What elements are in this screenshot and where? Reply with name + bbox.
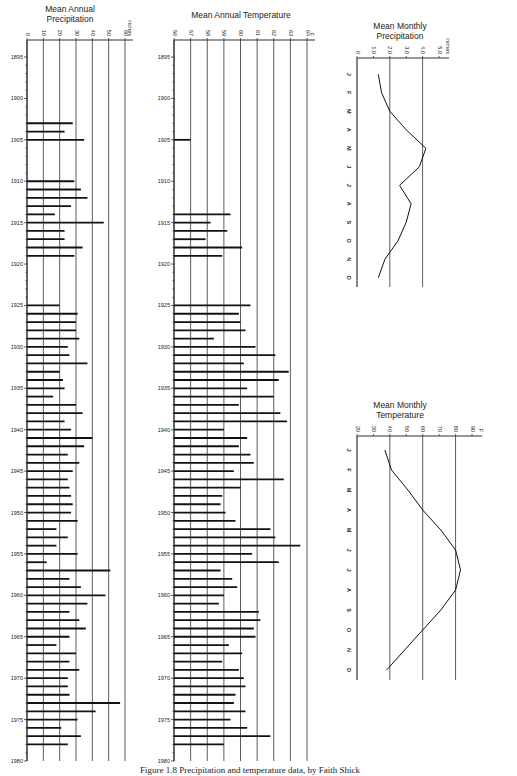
climate-figure: Mean AnnualPrecipitation0102030405060inc… <box>0 0 517 776</box>
x-tick-label: 58 <box>205 30 211 36</box>
y-tick-label: 1965 <box>11 634 23 640</box>
x-tick-label: 0 <box>25 33 31 36</box>
monthly-precipitation-chart: Mean MonthlyPrecipitation01.02.03.04.05.… <box>346 21 451 287</box>
y-tick-label: 1975 <box>11 717 23 723</box>
x-tick-label: 30 <box>74 30 80 36</box>
month-label: M <box>346 488 352 493</box>
y-tick-label: 1900 <box>158 95 170 101</box>
y-tick-label: 1965 <box>158 634 170 640</box>
y-tick-label: 1905 <box>158 137 170 143</box>
month-label: J <box>346 548 352 551</box>
y-tick-label: 1910 <box>11 178 23 184</box>
x-tick-label: 50 <box>404 426 410 432</box>
chart-title: Mean Monthly <box>373 400 427 410</box>
y-tick-label: 1930 <box>158 344 170 350</box>
month-label: O <box>346 239 352 244</box>
month-label: J <box>346 448 352 451</box>
y-tick-label: 1895 <box>158 54 170 60</box>
x-tick-label: 20 <box>355 426 361 432</box>
y-tick-label: 1925 <box>158 302 170 308</box>
x-tick-label: 40 <box>387 426 393 432</box>
month-label: D <box>346 276 352 280</box>
x-tick-label: 10 <box>41 30 47 36</box>
month-label: D <box>346 668 352 672</box>
chart-title: Mean Annual <box>45 4 95 14</box>
x-unit-label: F <box>478 429 484 433</box>
month-label: J <box>346 165 352 168</box>
month-label: M <box>346 146 352 151</box>
x-tick-label: 62 <box>271 30 277 36</box>
x-tick-label: 56 <box>172 30 178 36</box>
y-tick-label: 1920 <box>11 261 23 267</box>
y-tick-label: 1915 <box>158 220 170 226</box>
month-label: M <box>346 528 352 533</box>
month-label: M <box>346 109 352 114</box>
y-tick-label: 1955 <box>11 551 23 557</box>
y-tick-label: 1950 <box>11 510 23 516</box>
month-label: A <box>346 588 352 592</box>
y-tick-label: 1900 <box>11 95 23 101</box>
x-tick-label: 3.0 <box>404 46 410 54</box>
x-tick-label: 5.0 <box>437 46 443 54</box>
y-tick-label: 1955 <box>158 551 170 557</box>
x-tick-label: 59 <box>221 30 227 36</box>
y-tick-label: 1970 <box>158 675 170 681</box>
month-label: J <box>346 568 352 571</box>
monthly-temperature-chart: Mean MonthlyTemperature2030405060708090F… <box>346 400 484 680</box>
x-tick-label: 63 <box>288 30 294 36</box>
chart-title: Precipitation <box>47 14 94 24</box>
y-tick-label: 1910 <box>158 178 170 184</box>
y-tick-label: 1895 <box>11 54 23 60</box>
x-tick-label: 61 <box>255 30 261 36</box>
y-tick-label: 1940 <box>11 427 23 433</box>
y-tick-label: 1920 <box>158 261 170 267</box>
x-tick-label: 0 <box>355 51 361 54</box>
annual-temperature-chart: Mean Annual Temperature56575859606162636… <box>158 10 315 764</box>
x-tick-label: 40 <box>90 30 96 36</box>
figure-caption: Figure 1.8 Precipitation and temperature… <box>140 765 360 775</box>
month-label: J <box>346 73 352 76</box>
x-tick-label: 2.0 <box>387 46 393 54</box>
month-label: F <box>346 91 352 95</box>
x-tick-label: 90 <box>470 426 476 432</box>
y-tick-label: 1970 <box>11 675 23 681</box>
x-tick-label: 20 <box>57 30 63 36</box>
x-unit-label: inches <box>445 38 451 54</box>
chart-title: Mean Annual Temperature <box>191 10 291 20</box>
y-tick-label: 1960 <box>158 592 170 598</box>
x-tick-label: 80 <box>453 426 459 432</box>
y-tick-label: 1905 <box>11 137 23 143</box>
y-tick-label: 1925 <box>11 302 23 308</box>
month-label: N <box>346 648 352 652</box>
y-tick-label: 1980 <box>11 758 23 764</box>
month-label: O <box>346 628 352 633</box>
month-label: S <box>346 220 352 224</box>
chart-title: Mean Monthly <box>373 21 427 31</box>
x-tick-label: 60 <box>420 426 426 432</box>
x-tick-label: 50 <box>106 30 112 36</box>
month-label: A <box>346 202 352 206</box>
y-tick-label: 1950 <box>158 510 170 516</box>
x-tick-label: 60 <box>238 30 244 36</box>
x-tick-label: 70 <box>437 426 443 432</box>
annual-precipitation-chart: Mean AnnualPrecipitation0102030405060inc… <box>11 4 133 764</box>
y-tick-label: 1980 <box>158 758 170 764</box>
chart-title: Precipitation <box>377 31 424 41</box>
y-tick-label: 1940 <box>158 427 170 433</box>
y-tick-label: 1930 <box>11 344 23 350</box>
month-label: J <box>346 184 352 187</box>
month-label: A <box>346 128 352 132</box>
x-unit-label: F <box>309 33 315 37</box>
data-line <box>378 74 426 277</box>
y-tick-label: 1945 <box>11 468 23 474</box>
x-tick-label: 57 <box>188 30 194 36</box>
month-label: A <box>346 508 352 512</box>
month-label: F <box>346 468 352 472</box>
y-tick-label: 1935 <box>158 385 170 391</box>
chart-title: Temperature <box>376 410 424 420</box>
y-tick-label: 1975 <box>158 717 170 723</box>
y-tick-label: 1935 <box>11 385 23 391</box>
y-tick-label: 1945 <box>158 468 170 474</box>
month-label: S <box>346 608 352 612</box>
month-label: N <box>346 257 352 261</box>
